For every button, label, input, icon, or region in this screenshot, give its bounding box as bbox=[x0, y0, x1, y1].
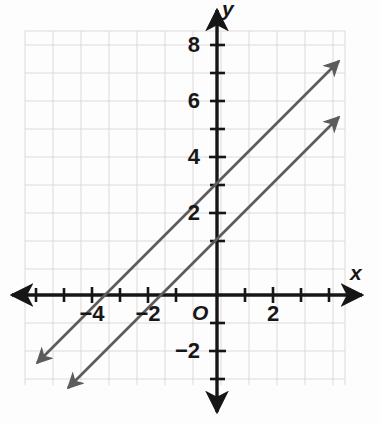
y-tick-label-2: 2 bbox=[176, 202, 200, 224]
y-tick-label-neg2: −2 bbox=[162, 340, 200, 362]
x-tick-label-neg4: −4 bbox=[70, 303, 114, 325]
origin-label: O bbox=[192, 302, 208, 323]
y-tick-label-4: 4 bbox=[176, 146, 200, 168]
y-tick-label-6: 6 bbox=[176, 90, 200, 112]
x-tick-label-neg2: −2 bbox=[126, 303, 170, 325]
x-axis-label: x bbox=[350, 262, 362, 283]
coordinate-graph-figure: 8 6 4 2 −2 −4 −2 2 O x y bbox=[0, 0, 380, 425]
y-axis-label: y bbox=[222, 0, 234, 19]
x-tick-label-2: 2 bbox=[251, 303, 295, 325]
y-tick-label-8: 8 bbox=[176, 34, 200, 56]
